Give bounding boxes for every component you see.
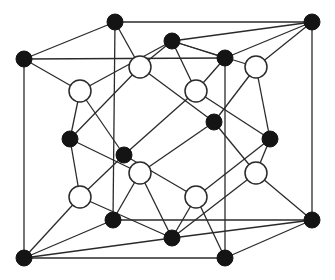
filled-atom-F [62,131,78,147]
open-atom-W6 [69,186,91,208]
open-atom-W3 [245,56,267,78]
open-atoms-layer [69,56,267,208]
open-atom-W7 [185,186,207,208]
bond-A-J [113,22,115,220]
filled-atom-I [116,147,132,163]
filled-atom-N [217,250,233,266]
bond-W4-H [196,91,270,139]
filled-atom-L [16,250,32,266]
filled-atom-A [107,14,123,30]
filled-atom-K [304,212,320,228]
filled-atom-C [16,51,32,67]
filled-atom-M [164,230,180,246]
bond-W1-D [80,41,172,91]
bond-W6-L [24,197,80,258]
filled-atom-G [206,114,222,130]
bond-W4-I [124,91,196,155]
filled-atom-H [262,131,278,147]
filled-atom-E [217,50,233,66]
bond-W5-G [140,122,214,173]
open-atom-W2 [129,56,151,78]
filled-atom-B [304,14,320,30]
open-atom-W4 [185,80,207,102]
bond-C-E [24,58,225,59]
bond-W3-D [172,41,256,67]
open-atom-W8 [245,162,267,184]
bond-W6-M [80,197,172,238]
filled-atom-J [105,212,121,228]
open-atom-W5 [129,162,151,184]
filled-atom-D [164,33,180,49]
bond-A-C [24,22,115,59]
open-atom-W1 [69,80,91,102]
crystal-structure-diagram [0,0,335,280]
